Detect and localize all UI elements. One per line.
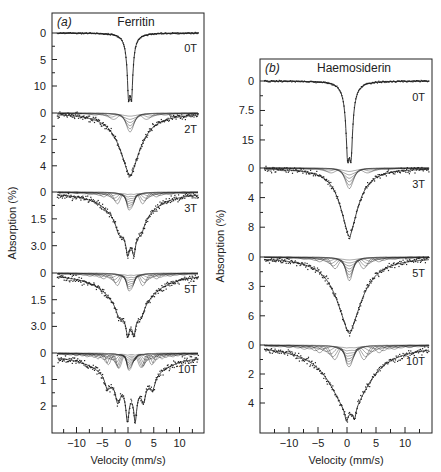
data-point	[352, 415, 353, 416]
data-point	[117, 406, 118, 407]
data-point	[368, 383, 369, 384]
data-point	[191, 356, 192, 357]
data-point	[332, 187, 333, 188]
data-point	[109, 216, 110, 217]
fit-total-curve	[265, 81, 429, 163]
data-point	[349, 157, 350, 158]
data-point	[133, 258, 134, 259]
data-point	[374, 180, 375, 181]
data-point	[364, 391, 365, 392]
data-point	[125, 328, 126, 329]
data-point	[164, 284, 165, 285]
data-point	[418, 167, 419, 168]
data-point	[418, 352, 419, 353]
data-point	[189, 360, 190, 361]
data-point	[92, 118, 93, 119]
data-point	[370, 279, 371, 280]
field-label: 0T	[184, 42, 197, 54]
data-point	[116, 312, 117, 313]
data-point	[339, 90, 340, 91]
data-point	[79, 277, 80, 278]
data-point	[175, 362, 176, 363]
data-point	[356, 316, 357, 317]
data-point	[363, 392, 364, 393]
data-point	[290, 263, 291, 264]
data-point	[339, 304, 340, 305]
data-point	[335, 192, 336, 193]
data-point	[286, 167, 287, 168]
data-point	[373, 377, 374, 378]
data-point	[296, 358, 297, 359]
data-point	[269, 263, 270, 264]
data-point	[83, 363, 84, 364]
data-point	[142, 140, 143, 141]
data-point	[309, 361, 310, 362]
data-point	[307, 363, 308, 364]
data-point	[93, 118, 94, 119]
data-point	[349, 238, 350, 239]
data-point	[138, 153, 139, 154]
x-tick-label: 0	[344, 437, 350, 449]
data-point	[131, 175, 132, 176]
data-point	[122, 42, 123, 43]
data-point	[323, 176, 324, 177]
data-point	[291, 170, 292, 171]
data-point	[402, 358, 403, 359]
data-point	[73, 115, 74, 116]
data-point	[128, 101, 129, 102]
data-point	[292, 353, 293, 354]
data-point	[142, 401, 143, 402]
data-point	[401, 261, 402, 262]
data-point	[102, 289, 103, 290]
data-point	[185, 279, 186, 280]
data-point	[68, 361, 69, 362]
data-point	[343, 101, 344, 102]
data-point	[336, 86, 337, 87]
data-point	[180, 198, 181, 199]
data-point	[184, 198, 185, 199]
data-point	[283, 351, 284, 352]
data-point	[140, 233, 141, 234]
data-point	[101, 291, 102, 292]
data-point	[343, 321, 344, 322]
data-point	[70, 280, 71, 281]
data-point	[318, 368, 319, 369]
data-point	[108, 388, 109, 389]
data-point	[328, 381, 329, 382]
data-point	[92, 200, 93, 201]
data-point	[85, 196, 86, 197]
data-point	[403, 171, 404, 172]
data-point	[296, 170, 297, 171]
data-point	[301, 168, 302, 169]
data-point	[71, 114, 72, 115]
data-point	[140, 235, 141, 236]
data-point	[362, 86, 363, 87]
data-point	[79, 115, 80, 116]
data-point	[180, 117, 181, 118]
data-point	[286, 351, 287, 352]
data-point	[307, 358, 308, 359]
data-point	[173, 360, 174, 361]
data-point	[126, 252, 127, 253]
data-point	[377, 177, 378, 178]
data-point	[310, 170, 311, 171]
data-point	[116, 309, 117, 310]
data-point	[118, 146, 119, 147]
data-point	[87, 283, 88, 284]
data-point	[185, 119, 186, 120]
data-point	[98, 285, 99, 286]
data-point	[346, 228, 347, 229]
data-point	[133, 64, 134, 65]
data-point	[123, 395, 124, 396]
data-point	[169, 120, 170, 121]
data-point	[424, 259, 425, 260]
data-point	[161, 202, 162, 203]
data-point	[119, 402, 120, 403]
data-point	[130, 399, 131, 400]
data-point	[162, 204, 163, 205]
y-tick-label: 0	[40, 347, 46, 359]
data-point	[326, 381, 327, 382]
data-point	[415, 168, 416, 169]
data-point	[354, 321, 355, 322]
y-tick-label: 3.0	[31, 320, 46, 332]
